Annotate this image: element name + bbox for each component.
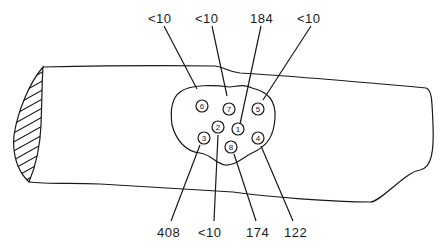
site-8-number: 8 (229, 143, 234, 152)
site-1-number: 1 (236, 125, 241, 134)
value-label-site-1: 184 (250, 11, 273, 26)
value-label-site-7: <10 (195, 11, 219, 26)
site-7-number: 7 (227, 105, 232, 114)
site-6-number: 6 (200, 102, 205, 111)
value-label-site-5: <10 (297, 11, 321, 26)
value-label-site-8: 174 (246, 225, 269, 240)
leader-lines-top (164, 26, 311, 124)
value-label-site-6: <10 (148, 11, 172, 26)
site-2-number: 2 (216, 123, 221, 132)
site-3-number: 3 (202, 134, 207, 143)
site-6: 6 (196, 100, 208, 112)
site-5-number: 5 (256, 105, 261, 114)
site-7: 7 (223, 103, 235, 115)
site-2: 2 (212, 121, 224, 133)
site-1: 1 (232, 123, 244, 135)
value-label-site-3: 408 (157, 225, 180, 240)
site-4: 4 (252, 132, 264, 144)
value-label-site-4: 122 (284, 225, 307, 240)
site-4-number: 4 (256, 134, 261, 143)
site-3: 3 (198, 132, 210, 144)
value-label-site-2: <10 (198, 225, 222, 240)
site-5: 5 (252, 103, 264, 115)
site-8: 8 (225, 141, 237, 153)
vessel-diagram: <10 <10 184 <10 408 <10 174 122 6 7 5 2 … (0, 0, 441, 248)
